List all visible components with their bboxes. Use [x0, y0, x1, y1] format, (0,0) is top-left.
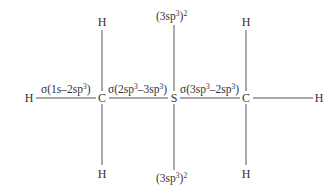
bond-label-s-c2: σ(3sp3–2sp3): [180, 82, 239, 96]
atom-h-right: H: [315, 91, 324, 105]
atom-c1: C: [98, 91, 106, 105]
bond-label-h-c1: σ(1s–2sp3): [41, 82, 91, 96]
bonding-diagram: H C S C H H H H H σ(1s–2sp3) σ(2sp3–3sp3…: [0, 0, 335, 194]
atom-h-left: H: [25, 91, 34, 105]
lone-pair-top-label: (3sp3)2: [156, 9, 187, 23]
atom-s: S: [171, 91, 178, 105]
atom-c2-h-top: H: [242, 15, 251, 29]
lone-pair-bottom-label: (3sp3)2: [156, 171, 187, 185]
atom-c2-h-bottom: H: [242, 167, 251, 181]
atom-c1-h-bottom: H: [98, 167, 107, 181]
bond-label-c1-s: σ(2sp3–3sp3): [108, 82, 167, 96]
atom-c2: C: [242, 91, 250, 105]
atom-c1-h-top: H: [98, 15, 107, 29]
